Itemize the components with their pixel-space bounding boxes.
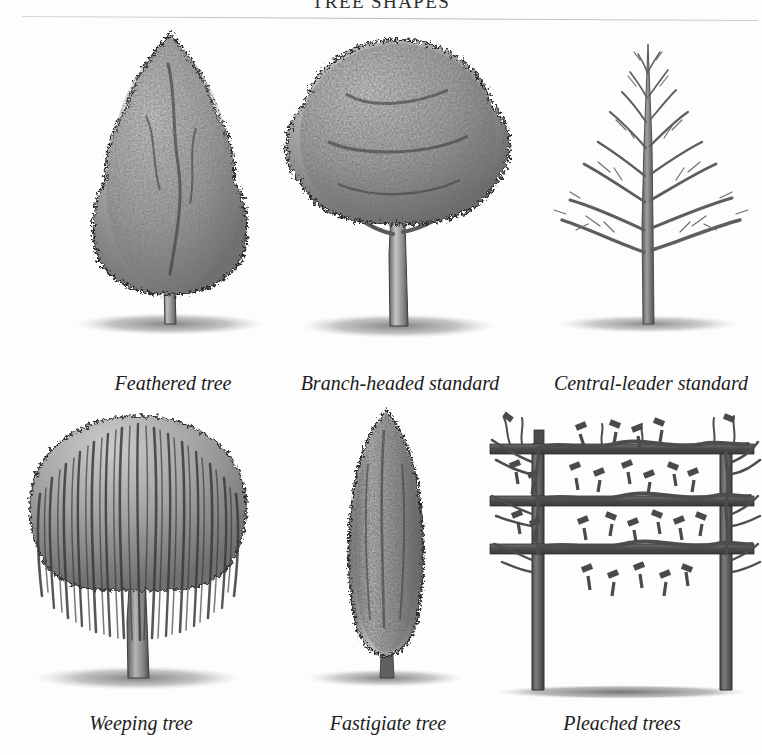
caption-branch-headed-standard: Branch-headed standard <box>276 372 524 395</box>
illustration-page: TREE SHAPES <box>0 0 762 755</box>
figure-central-leader-standard: Central-leader standard <box>540 24 762 394</box>
trunks <box>532 430 732 690</box>
figure-feathered-tree: Feathered tree <box>68 24 278 394</box>
central-leader-standard-illustration <box>540 24 762 364</box>
figure-pleached-trees: Pleached trees <box>482 404 762 754</box>
pleached-trees-illustration <box>482 404 762 704</box>
caption-weeping-tree: Weeping tree <box>10 712 272 735</box>
caption-fastigiate-tree: Fastigiate tree <box>290 712 486 735</box>
leader-trunk <box>642 44 654 324</box>
page-title: TREE SHAPES <box>0 0 762 13</box>
caption-pleached-trees: Pleached trees <box>482 712 762 735</box>
figure-weeping-tree: Weeping tree <box>10 404 272 754</box>
feathered-tree-illustration <box>68 24 278 364</box>
caption-central-leader-standard: Central-leader standard <box>540 372 762 395</box>
branch-headed-standard-illustration <box>276 24 524 364</box>
caption-feathered-tree: Feathered tree <box>68 372 278 395</box>
header-rule <box>22 16 758 21</box>
fastigiate-tree-illustration <box>290 404 486 704</box>
figure-fastigiate-tree: Fastigiate tree <box>290 404 486 754</box>
weeping-tree-illustration <box>10 404 272 704</box>
figure-branch-headed-standard: Branch-headed standard <box>276 24 524 394</box>
